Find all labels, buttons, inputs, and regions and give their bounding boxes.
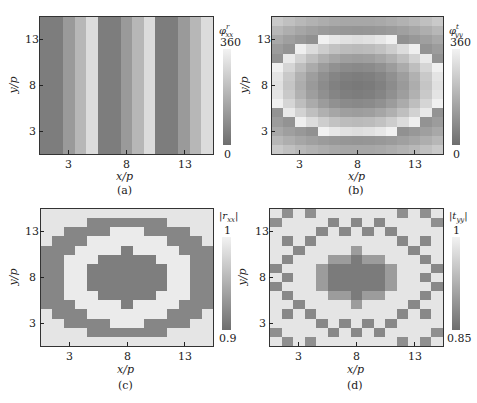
heatmap-cell — [190, 136, 202, 145]
heatmap-cell — [75, 246, 86, 255]
heatmap-cell — [179, 291, 190, 300]
heatmap-cell — [167, 309, 178, 318]
heatmap-cell — [202, 337, 213, 346]
heatmap-cell — [386, 90, 397, 99]
heatmap-cell — [316, 218, 328, 227]
heatmap-cell — [295, 99, 306, 108]
heatmap-cell — [374, 328, 386, 337]
x-tick-label: 3 — [66, 351, 73, 362]
heatmap-cell — [420, 17, 431, 26]
heatmap-cell — [283, 72, 294, 81]
heatmap-cell — [374, 246, 386, 255]
heatmap-cell — [432, 26, 443, 35]
heatmap-cell — [190, 328, 201, 337]
heatmap-cell — [75, 35, 87, 44]
heatmap-cell — [305, 264, 317, 273]
heatmap-cell — [179, 273, 190, 282]
heatmap-cell — [178, 44, 190, 53]
heatmap-cell — [40, 136, 52, 145]
heatmap-cell — [420, 81, 431, 90]
heatmap-cell — [318, 54, 329, 63]
heatmap-cell — [432, 108, 443, 117]
heatmap-cell — [328, 328, 340, 337]
heatmap-cell — [397, 54, 408, 63]
y-tick-mark — [271, 39, 275, 40]
x-tick-mark — [298, 342, 299, 346]
heatmap-cell — [329, 17, 340, 26]
heatmap-cell — [339, 291, 351, 300]
x-tick-mark — [299, 150, 300, 154]
heatmap-cell — [397, 35, 408, 44]
heatmap-cell — [121, 54, 133, 63]
heatmap-cell — [362, 255, 374, 264]
heatmap-cell — [109, 136, 121, 145]
heatmap-cell — [282, 273, 294, 282]
heatmap-cell — [121, 26, 133, 35]
heatmap-cell — [305, 246, 317, 255]
heatmap-cell — [40, 99, 52, 108]
y-tick-mark — [40, 323, 44, 324]
heatmap-cell — [431, 319, 443, 328]
heatmap-cell — [52, 90, 64, 99]
heatmap-cell — [385, 218, 397, 227]
heatmap-cell — [351, 246, 363, 255]
heatmap-cell — [86, 26, 98, 35]
heatmap-cell — [190, 99, 202, 108]
heatmap-cell — [363, 145, 374, 154]
heatmap-cell — [201, 127, 213, 136]
heatmap-cell — [75, 227, 86, 236]
panel-caption: (d) — [347, 380, 363, 392]
y-tick-mark — [271, 85, 275, 86]
heatmap-cell — [318, 90, 329, 99]
heatmap-cell — [293, 309, 305, 318]
heatmap-cell — [190, 300, 201, 309]
heatmap-cell — [283, 26, 294, 35]
heatmap-cell — [329, 108, 340, 117]
colorbar-max-label: 1 — [453, 225, 460, 236]
heatmap-cell — [293, 319, 305, 328]
heatmap-cell — [328, 319, 340, 328]
x-tick-mark — [356, 342, 357, 346]
heatmap-cell — [385, 282, 397, 291]
heatmap-cell — [282, 282, 294, 291]
heatmap-cell — [52, 218, 63, 227]
heatmap-cell — [190, 255, 201, 264]
heatmap-cell — [155, 117, 167, 126]
heatmap-cell — [144, 236, 155, 245]
heatmap-cell — [121, 108, 133, 117]
heatmap-cell — [340, 99, 351, 108]
heatmap-cell — [41, 337, 52, 346]
heatmap-cell — [408, 282, 420, 291]
heatmap-cell — [374, 282, 386, 291]
heatmap-cell — [352, 26, 363, 35]
heatmap-cell — [329, 145, 340, 154]
heatmap-cell — [121, 99, 133, 108]
heatmap-cell — [431, 328, 443, 337]
heatmap-cell — [316, 319, 328, 328]
heatmap-cell — [306, 136, 317, 145]
heatmap-cell — [133, 319, 144, 328]
heatmap-cell — [52, 300, 63, 309]
heatmap-cell — [375, 136, 386, 145]
heatmap-cell — [155, 72, 167, 81]
heatmap-cell — [397, 236, 409, 245]
heatmap-cell — [362, 319, 374, 328]
heatmap-cell — [363, 44, 374, 53]
heatmap-cell — [408, 246, 420, 255]
heatmap-cell — [409, 127, 420, 136]
heatmap-cell — [386, 99, 397, 108]
x-axis-label: x/p — [116, 171, 133, 183]
heatmap-cell — [144, 282, 155, 291]
heatmap-cell — [41, 309, 52, 318]
heatmap-cell — [386, 44, 397, 53]
heatmap-cell — [75, 54, 87, 63]
y-axis-label: y/p — [8, 77, 20, 94]
heatmap-cell — [328, 218, 340, 227]
heatmap-cell — [420, 136, 431, 145]
y-tick-label: 3 — [29, 318, 36, 329]
heatmap-cell — [98, 291, 109, 300]
heatmap-cell — [295, 136, 306, 145]
heatmap-cell — [385, 264, 397, 273]
colorbar-sup: r — [226, 23, 229, 31]
heatmap-cell — [397, 218, 409, 227]
